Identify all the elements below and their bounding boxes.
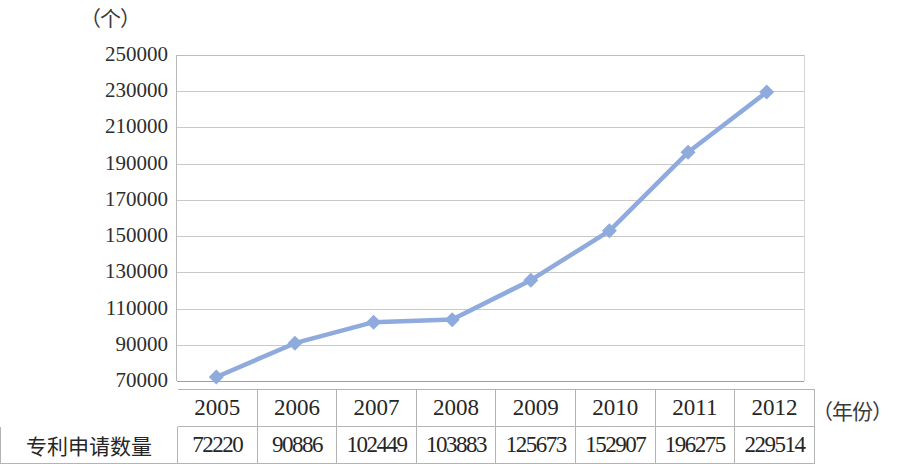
y-axis-tick-label: 250000 bbox=[8, 44, 168, 65]
table-value-cell: 90886 bbox=[257, 427, 337, 464]
data-point-marker bbox=[366, 315, 381, 330]
y-axis-tick-label: 90000 bbox=[8, 334, 168, 355]
table-value-cell: 72220 bbox=[178, 427, 258, 464]
series-line bbox=[216, 92, 766, 377]
data-point-marker bbox=[209, 369, 224, 384]
table-year-cell: 2008 bbox=[416, 390, 496, 427]
y-axis-tick-label: 70000 bbox=[8, 370, 168, 391]
table-year-cell: 2011 bbox=[655, 390, 735, 427]
table-corner-cell bbox=[1, 390, 178, 427]
y-axis-tick-label: 130000 bbox=[8, 261, 168, 282]
y-axis-tick-label: 150000 bbox=[8, 225, 168, 246]
table-value-cell: 125673 bbox=[496, 427, 576, 464]
table-year-cell: 2010 bbox=[575, 390, 655, 427]
table-year-cell: 2012 bbox=[735, 390, 815, 427]
data-point-marker bbox=[287, 336, 302, 351]
table-year-cell: 2009 bbox=[496, 390, 576, 427]
table-row-label: 专利申请数量 bbox=[1, 427, 178, 464]
table-year-cell: 2006 bbox=[257, 390, 337, 427]
table-value-cell: 152907 bbox=[575, 427, 655, 464]
x-axis-title: （年份） bbox=[812, 395, 892, 425]
line-series bbox=[177, 55, 806, 381]
table-value-cell: 229514 bbox=[735, 427, 815, 464]
table-value-cell: 102449 bbox=[337, 427, 417, 464]
table-value-cell: 103883 bbox=[416, 427, 496, 464]
y-axis-tick-label: 110000 bbox=[8, 298, 168, 319]
plot-area bbox=[176, 55, 805, 381]
table-year-cell: 2007 bbox=[337, 390, 417, 427]
y-axis-tick-label: 230000 bbox=[8, 80, 168, 101]
data-table-wrapper: 20052006200720082009201020112012 专利申请数量 … bbox=[0, 389, 806, 463]
table-row-years: 20052006200720082009201020112012 bbox=[1, 390, 815, 427]
gridline bbox=[177, 381, 804, 382]
y-axis-tick-label: 170000 bbox=[8, 189, 168, 210]
table-year-cell: 2005 bbox=[178, 390, 258, 427]
y-axis-tick-label: 210000 bbox=[8, 116, 168, 137]
table-value-cell: 196275 bbox=[655, 427, 735, 464]
y-axis-tick-label: 190000 bbox=[8, 153, 168, 174]
data-table: 20052006200720082009201020112012 专利申请数量 … bbox=[0, 389, 815, 464]
table-row-values: 专利申请数量 722209088610244910388312567315290… bbox=[1, 427, 815, 464]
data-point-marker bbox=[445, 312, 460, 327]
